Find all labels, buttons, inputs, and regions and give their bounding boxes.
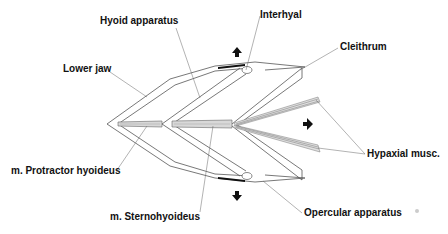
label-cleithrum: Cleithrum — [340, 41, 387, 53]
leader-cleithrum — [300, 48, 338, 70]
label-hypaxial-musc: Hypaxial musc. — [367, 148, 440, 160]
leader-opercular — [263, 181, 302, 213]
label-sternohyoideus: m. Sternohyoideus — [110, 211, 200, 223]
label-opercular-apparatus: Opercular apparatus — [304, 207, 402, 219]
down-arrow-icon — [232, 191, 242, 201]
leader-lower-jaw — [110, 72, 147, 97]
leader-sternohyoideus — [200, 126, 213, 212]
leader-hyoid — [176, 28, 200, 98]
cleithrum-lower — [232, 124, 302, 180]
right-arrow-icon — [303, 118, 313, 130]
diagram-svg — [0, 0, 448, 234]
label-protractor-hyoideus: m. Protractor hyoideus — [11, 165, 120, 177]
hyoid-lower — [162, 124, 246, 176]
hyoid-upper — [162, 68, 246, 124]
label-interhyal: Interhyal — [260, 9, 302, 21]
sternohyoideus-muscle — [172, 120, 232, 128]
protractor-hyoideus-muscle — [118, 121, 162, 127]
up-arrow-icon — [232, 47, 242, 57]
leader-hypaxial-lower — [318, 148, 365, 154]
leader-hypaxial-upper — [316, 100, 365, 154]
lower-black-bar — [218, 177, 245, 182]
label-lower-jaw: Lower jaw — [63, 63, 111, 75]
label-hyoid-apparatus: Hyoid apparatus — [100, 15, 178, 27]
interhyal-joint-lower — [242, 173, 252, 180]
diagram-canvas — [0, 0, 448, 234]
interhyal-joint-upper — [242, 67, 252, 74]
faint-mark — [415, 209, 419, 213]
